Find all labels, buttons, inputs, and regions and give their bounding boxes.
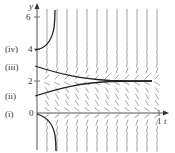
y-tick-6: 6 xyxy=(26,12,31,22)
y-tick-4: 4 xyxy=(28,44,33,54)
t-axis-label: t xyxy=(164,116,167,126)
y-tick-2: 2 xyxy=(28,76,33,86)
curve-label-ii: (ii) xyxy=(5,91,16,101)
y-axis-label: y xyxy=(28,1,33,11)
solution-curve-iv xyxy=(35,10,55,50)
curve-label-i: (i) xyxy=(5,109,14,119)
slope-field-figure: y t 6 4 2 0 1 (iv) (iii) (ii) (i) xyxy=(0,0,175,153)
solution-curve-i xyxy=(37,114,56,151)
y-axis-arrow-icon xyxy=(35,3,40,9)
y-tick-0: 0 xyxy=(29,108,34,118)
solution-curve-ii xyxy=(35,81,152,96)
t-tick-1: 1 xyxy=(157,116,162,126)
t-axis-arrow-icon xyxy=(163,111,169,116)
curve-label-iv: (iv) xyxy=(5,44,18,54)
curve-label-iii: (iii) xyxy=(5,62,19,72)
slope-field-plot: y t 6 4 2 0 1 (iv) (iii) (ii) (i) xyxy=(0,0,175,153)
solution-curve-iii xyxy=(35,66,152,81)
